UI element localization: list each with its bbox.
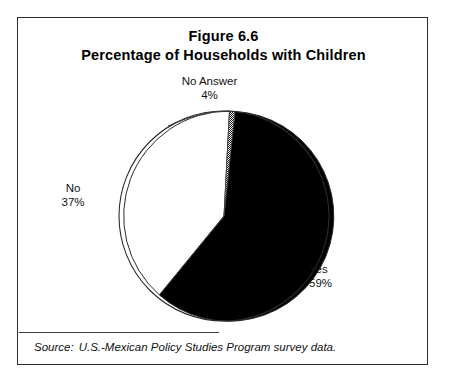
pie-chart-area: No Answer 4% No 37% Yes 59% (18, 18, 429, 318)
pie-label-no-answer-value: 4% (182, 88, 238, 102)
pie-label-no-answer: No Answer 4% (18, 74, 429, 102)
pie-label-yes-name: Yes (309, 262, 369, 276)
pie-label-no-answer-name: No Answer (182, 74, 238, 88)
pie-label-no-name: No (42, 181, 104, 195)
source-note: Source:U.S.-Mexican Policy Studies Progr… (34, 341, 336, 353)
source-label: Source: (34, 341, 74, 353)
pie-label-yes-value: 59% (309, 276, 369, 290)
figure-frame: Figure 6.6 Percentage of Households with… (17, 17, 428, 365)
pie-label-no: No 37% (42, 181, 104, 209)
pie-label-no-value: 37% (42, 195, 104, 209)
source-divider (19, 332, 219, 333)
source-description: U.S.-Mexican Policy Studies Program surv… (79, 341, 337, 353)
pie-label-yes: Yes 59% (309, 262, 369, 290)
